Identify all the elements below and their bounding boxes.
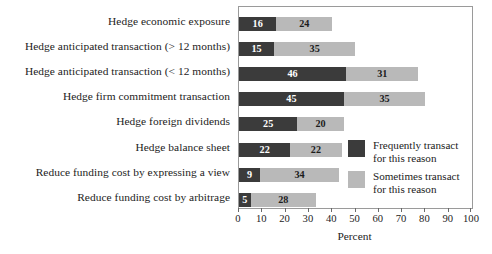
x-axis-tick-label: 20 xyxy=(279,212,290,226)
chart-legend: Frequently transact for this reasonSomet… xyxy=(348,139,468,201)
x-axis-title: Percent xyxy=(238,229,471,244)
category-label: Hedge firm commitment transaction xyxy=(63,90,230,103)
x-axis-tick-label: 0 xyxy=(235,212,240,226)
bar-segment: 5 xyxy=(239,193,251,207)
x-axis-tick-label: 60 xyxy=(373,212,384,226)
legend-swatch-dark xyxy=(348,140,365,157)
bar-segment: 22 xyxy=(290,143,341,157)
bar-segment: 22 xyxy=(239,143,290,157)
x-axis-tick-label: 50 xyxy=(349,212,360,226)
bar-segment: 9 xyxy=(239,168,260,182)
category-label: Hedge balance sheet xyxy=(135,141,230,154)
category-label: Hedge foreign dividends xyxy=(116,115,230,128)
legend-item: Sometimes transact for this reason xyxy=(348,170,468,195)
bar-segment: 35 xyxy=(274,42,356,56)
bar-segment: 35 xyxy=(344,92,426,106)
bar-segment: 20 xyxy=(297,117,344,131)
bar-segment: 24 xyxy=(276,17,332,31)
x-axis-tick-labels: 0102030405060708090100 xyxy=(238,212,471,228)
x-axis-tick-label: 90 xyxy=(442,212,453,226)
bar-row: 2222 xyxy=(239,143,342,157)
stacked-bar-chart: Hedge economic exposureHedge anticipated… xyxy=(0,0,492,254)
bar-segment: 45 xyxy=(239,92,344,106)
x-axis-tick-label: 70 xyxy=(396,212,407,226)
bar-segment: 28 xyxy=(251,193,316,207)
bar-row: 4535 xyxy=(239,92,425,106)
category-label: Hedge economic exposure xyxy=(108,15,230,28)
bar-row: 2520 xyxy=(239,117,344,131)
bar-row: 934 xyxy=(239,168,339,182)
category-label: Reduce funding cost by arbitrage xyxy=(77,191,230,204)
legend-label: Sometimes transact for this reason xyxy=(373,170,460,195)
bar-row: 4631 xyxy=(239,67,418,81)
x-axis-tick-label: 40 xyxy=(326,212,337,226)
x-axis-tick-label: 100 xyxy=(463,212,479,226)
x-axis-tick-label: 80 xyxy=(419,212,430,226)
bar-segment: 31 xyxy=(346,67,418,81)
bar-row: 1624 xyxy=(239,17,332,31)
x-axis-tick-label: 30 xyxy=(303,212,314,226)
category-axis-labels: Hedge economic exposureHedge anticipated… xyxy=(0,6,234,207)
bar-row: 1535 xyxy=(239,42,355,56)
bar-segment: 15 xyxy=(239,42,274,56)
category-label: Hedge anticipated transaction (< 12 mont… xyxy=(25,65,230,78)
bar-segment: 16 xyxy=(239,17,276,31)
legend-swatch-light xyxy=(348,171,365,188)
x-axis-tick-label: 10 xyxy=(256,212,267,226)
category-label: Hedge anticipated transaction (> 12 mont… xyxy=(25,40,230,53)
category-label: Reduce funding cost by expressing a view xyxy=(36,166,230,179)
bar-segment: 46 xyxy=(239,67,346,81)
legend-item: Frequently transact for this reason xyxy=(348,139,468,164)
legend-label: Frequently transact for this reason xyxy=(373,139,458,164)
bar-segment: 25 xyxy=(239,117,297,131)
bar-row: 528 xyxy=(239,193,316,207)
bar-segment: 34 xyxy=(260,168,339,182)
